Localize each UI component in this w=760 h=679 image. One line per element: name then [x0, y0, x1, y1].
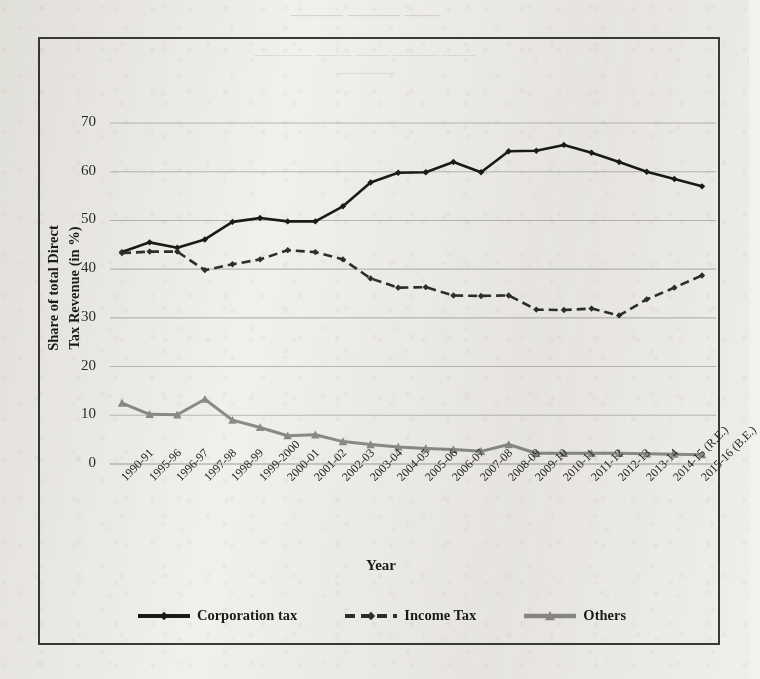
series-line: [122, 250, 702, 315]
data-series-group: [118, 142, 707, 459]
legend-swatch: [343, 608, 399, 624]
diamond-marker: [699, 183, 705, 189]
diamond-marker: [533, 148, 539, 154]
diamond-marker: [395, 169, 401, 175]
diamond-marker: [423, 169, 429, 175]
x-axis-title: Year: [40, 557, 722, 574]
diamond-marker: [285, 247, 291, 253]
triangle-marker: [201, 395, 210, 403]
diamond-marker: [561, 142, 567, 148]
legend-item-income-tax[interactable]: Income Tax: [343, 607, 476, 624]
legend-label: Others: [583, 607, 626, 624]
line-chart-plot: [40, 39, 722, 647]
legend-swatch: [136, 608, 192, 624]
diamond-marker: [533, 306, 539, 312]
legend-swatch: [522, 608, 578, 624]
diamond-marker: [588, 305, 594, 311]
diamond-marker: [644, 169, 650, 175]
diamond-marker: [671, 176, 677, 182]
chart-legend: Corporation taxIncome TaxOthers: [40, 607, 722, 624]
diamond-marker: [423, 284, 429, 290]
diamond-marker: [588, 150, 594, 156]
diamond-marker: [450, 292, 456, 298]
diamond-marker: [229, 261, 235, 267]
gridlines-group: [110, 123, 716, 464]
bleed-through-title: —— ——— ———: [150, 2, 580, 28]
chart-frame: 010203040506070 Share of total DirectTax…: [38, 37, 720, 645]
diamond-marker: [367, 611, 375, 619]
diamond-marker: [146, 248, 152, 254]
series-line: [122, 145, 702, 252]
legend-label: Income Tax: [404, 607, 476, 624]
legend-item-others[interactable]: Others: [522, 607, 626, 624]
y-axis-title-line-1: Share of total Direct: [43, 88, 64, 488]
diamond-marker: [257, 256, 263, 262]
diamond-marker: [312, 249, 318, 255]
diamond-marker: [478, 293, 484, 299]
diamond-marker: [285, 218, 291, 224]
y-axis-title-line-2: Tax Revenue (in %): [64, 88, 85, 488]
diamond-marker: [561, 307, 567, 313]
diamond-marker: [146, 239, 152, 245]
diamond-marker: [160, 611, 168, 619]
y-axis-title: Share of total DirectTax Revenue (in %): [43, 88, 85, 488]
series-income-tax: [119, 247, 705, 319]
diamond-marker: [450, 159, 456, 165]
diamond-marker: [395, 284, 401, 290]
diamond-marker: [616, 159, 622, 165]
diamond-marker: [340, 256, 346, 262]
legend-label: Corporation tax: [197, 607, 297, 624]
legend-item-corporation-tax[interactable]: Corporation tax: [136, 607, 297, 624]
series-corporation-tax: [119, 142, 705, 256]
